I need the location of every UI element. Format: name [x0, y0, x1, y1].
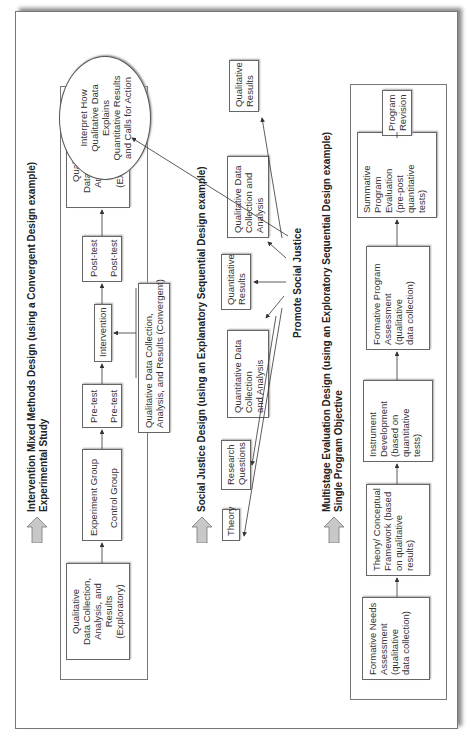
box-text: Evaluation [383, 137, 394, 213]
section-arrow-icon [324, 517, 344, 543]
intervention-box: Intervention [94, 304, 112, 362]
posttest-label: Post-test [108, 241, 119, 277]
box-text: Results [103, 568, 114, 655]
research-questions-box: Research Questions [221, 440, 251, 490]
box-text: Quantitative Data [232, 335, 243, 413]
section-arrow-icon [27, 517, 47, 543]
diagram-stage: Intervention Mixed Methods Design (using… [0, 0, 471, 748]
box-text: Instrument [367, 385, 378, 457]
box-text: Quantitative [225, 259, 236, 305]
control-group-label: Control Group [108, 454, 119, 536]
box-text: on qualitative [393, 489, 404, 571]
box-text: Explains [100, 100, 111, 136]
box-text: Theory [225, 514, 236, 536]
posttest-box: Post-test Post-test [82, 236, 122, 282]
box-text: (qualitative [393, 251, 404, 345]
quant-data-box: Quantitative Data Collection and Analysi… [227, 330, 269, 418]
experiment-group-label: Experiment Group [88, 454, 99, 536]
interpret-ellipse: Interpret How Qualitative Data Explains … [59, 56, 151, 180]
box-text: Results [244, 65, 255, 107]
pretest-label: Pre-test [108, 389, 119, 423]
box-text: quantitative [405, 137, 416, 213]
box-text: Theory/ Conceptual [371, 489, 382, 571]
box-text: (pre-post [394, 137, 405, 213]
box-text: Program [372, 137, 383, 213]
box-text: Results [236, 259, 247, 305]
box-text: Summative [361, 137, 372, 213]
theory-framework-box: Theory/ Conceptual Framework (based on q… [366, 484, 430, 576]
promote-social-justice-label: Promote Social Justice [292, 228, 303, 338]
qual-convergent-box: Qualitative Data Collection, Analysis, a… [138, 283, 170, 433]
box-text: Analysis, and [92, 568, 103, 655]
formative-program-box: Formative Program Assessment (qualitativ… [366, 246, 430, 350]
box-text: quantitative [400, 385, 411, 457]
qual-exploratory-box: Qualitative Data Collection, Analysis, a… [66, 563, 130, 660]
box-text: Quantitative Results [111, 76, 122, 161]
intervention-label: Intervention [97, 309, 108, 357]
posttest-label: Post-test [88, 241, 99, 277]
box-text: Qualitative [70, 568, 81, 655]
section-title-multistage: Multistage Evaluation Design (using an E… [321, 132, 333, 512]
section-subtitle-multistage: Single Program Objective [333, 390, 345, 512]
box-text: and Calls for Action [122, 77, 133, 159]
box-text: tests) [411, 385, 422, 457]
box-text: Framework (based [382, 489, 393, 571]
box-text: Assessment [378, 602, 389, 675]
box-text: Analysis, and Results (Convergent) [154, 288, 165, 428]
instrument-development-box: Instrument Development (based on quantit… [363, 380, 433, 462]
box-text: Data Collection, [81, 568, 92, 655]
section-title-intervention: Intervention Mixed Methods Design (using… [26, 162, 38, 512]
box-text: data collection) [404, 251, 415, 345]
section-arrow-icon [192, 517, 212, 543]
box-text: Interpret How [78, 89, 89, 146]
box-text: Qualitative Data [89, 84, 100, 152]
needs-assessment-box: Formative Needs Assessment (qualitative … [362, 597, 430, 680]
groups-box: Experiment Group Control Group [82, 449, 122, 541]
box-text: Formative Program [371, 251, 382, 345]
box-text: Program [386, 95, 397, 131]
box-text: results) [404, 489, 415, 571]
section-title-social-justice: Social Justice Design (using an Explanat… [196, 166, 208, 512]
section-subtitle-intervention: Experimental Study [38, 419, 50, 512]
theory-box: Theory [222, 509, 240, 541]
pretest-box: Pre-test Pre-test [82, 384, 122, 428]
summative-evaluation-box: Summative Program Evaluation (pre-post q… [357, 132, 437, 218]
box-text: Questions [236, 445, 247, 485]
box-text: Collection [243, 335, 254, 413]
quant-results-box: Quantitative Results [221, 254, 251, 310]
box-text: and Analysis [254, 335, 265, 413]
pretest-label: Pre-test [88, 389, 99, 423]
qual-results-box: Qualitative Results [229, 60, 259, 112]
box-text: Analysis [254, 161, 265, 233]
box-text: (Exploratory) [114, 568, 125, 655]
qual-data-box: Qualitative Data Collection and Analysis [227, 156, 269, 238]
box-text: Research [225, 445, 236, 485]
box-text: Collection and [243, 161, 254, 233]
box-text: (qualitative [389, 602, 400, 675]
program-revision-box: Program Revision [382, 90, 412, 136]
box-text: Formative Needs [367, 602, 378, 675]
box-text: Development [378, 385, 389, 457]
box-text: tests) [416, 137, 427, 213]
box-text: (based on [389, 385, 400, 457]
box-text: Qualitative Data Collection, [143, 288, 154, 428]
box-text: Qualitative [233, 65, 244, 107]
box-text: data collection) [400, 602, 411, 675]
box-text: Qualitative Data [232, 161, 243, 233]
box-text: Assessment [382, 251, 393, 345]
box-text: Revision [397, 95, 408, 131]
